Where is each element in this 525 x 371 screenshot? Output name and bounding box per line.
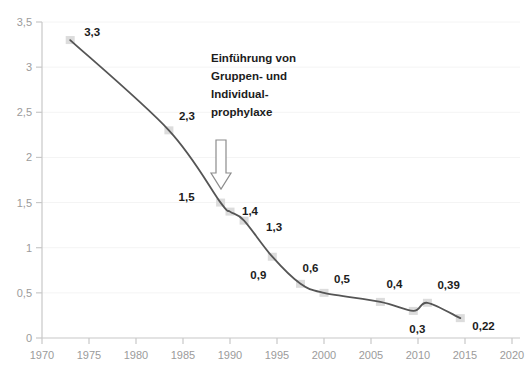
data-point-label: 0,22 (472, 320, 494, 332)
y-tick-label: 1,5 (17, 197, 32, 209)
y-tick-label: 3,5 (17, 16, 32, 28)
x-tick-label: 1985 (171, 349, 195, 361)
x-tick-label: 1975 (77, 349, 101, 361)
down-arrow-icon (211, 140, 231, 189)
x-tick-label: 1980 (124, 349, 148, 361)
data-point-labels: 3,32,31,51,41,30,90,60,50,40,30,390,22 (84, 26, 494, 335)
x-tick-label: 2010 (406, 349, 430, 361)
x-tick-label: 2005 (359, 349, 383, 361)
data-point-label: 0,39 (437, 279, 459, 291)
y-tick-label: 0,5 (17, 287, 32, 299)
y-tick-label: 2,5 (17, 106, 32, 118)
data-point-label: 0,6 (303, 262, 319, 274)
x-axis: 1970197519801985199019952000200520102015… (30, 338, 524, 361)
x-tick-label: 1970 (30, 349, 54, 361)
y-axis: 00,511,522,533,5 (17, 16, 42, 344)
annotation-line-4: prophylaxe (211, 106, 272, 118)
data-point-label: 2,3 (179, 110, 195, 122)
x-tick-label: 1990 (218, 349, 242, 361)
data-point-label: 0,9 (250, 269, 266, 281)
data-point-label: 3,3 (84, 26, 100, 38)
line-chart: 00,511,522,533,5 19701975198019851990199… (0, 0, 525, 371)
annotation-arrow-down-icon (211, 140, 231, 189)
annotation-line-2: Gruppen- und (211, 70, 287, 82)
y-tick-label: 3 (26, 61, 32, 73)
data-point-label: 0,4 (386, 278, 403, 290)
data-point-label: 1,5 (179, 191, 196, 203)
y-tick-label: 1 (26, 242, 32, 254)
y-tick-label: 0 (26, 332, 32, 344)
y-tick-label: 2 (26, 151, 32, 163)
x-tick-label: 1995 (265, 349, 289, 361)
data-point-label: 0,3 (409, 323, 425, 335)
x-tick-label: 2000 (312, 349, 336, 361)
annotation-text: Einführung von Gruppen- und Individual- … (211, 52, 296, 118)
data-point-label: 1,4 (242, 205, 259, 217)
x-tick-label: 2015 (453, 349, 477, 361)
data-point-label: 0,5 (334, 273, 351, 285)
annotation-line-1: Einführung von (211, 52, 296, 64)
x-tick-label: 2020 (500, 349, 524, 361)
annotation-line-3: Individual- (211, 88, 269, 100)
data-point-label: 1,3 (266, 221, 282, 233)
chart-container: 00,511,522,533,5 19701975198019851990199… (0, 0, 525, 371)
